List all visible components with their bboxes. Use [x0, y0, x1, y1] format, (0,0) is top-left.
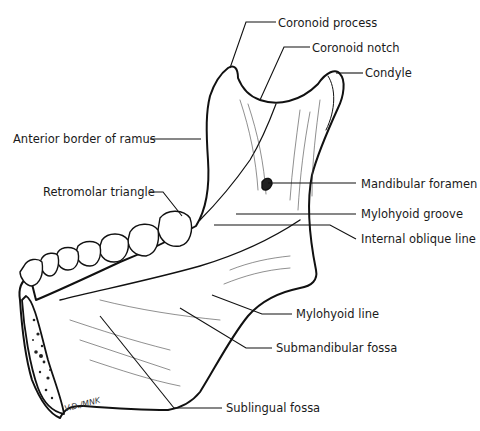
- label-condyle: Condyle: [365, 66, 412, 80]
- label-sublingual-fossa: Sublingual fossa: [226, 401, 320, 415]
- mandible-diagram: Coronoid process Coronoid notch Condyle …: [0, 0, 480, 431]
- label-mylohyoid-groove: Mylohyoid groove: [361, 207, 463, 221]
- label-submandibular-fossa: Submandibular fossa: [276, 341, 397, 355]
- label-mylohyoid-line: Mylohyoid line: [296, 307, 379, 321]
- label-coronoid-process: Coronoid process: [278, 16, 377, 30]
- label-internal-oblique-line: Internal oblique line: [361, 232, 476, 246]
- label-anterior-border-of-ramus: Anterior border of ramus: [13, 132, 156, 146]
- label-coronoid-notch: Coronoid notch: [312, 41, 400, 55]
- label-mandibular-foramen: Mandibular foramen: [361, 177, 477, 191]
- label-retromolar-triangle: Retromolar triangle: [43, 185, 155, 199]
